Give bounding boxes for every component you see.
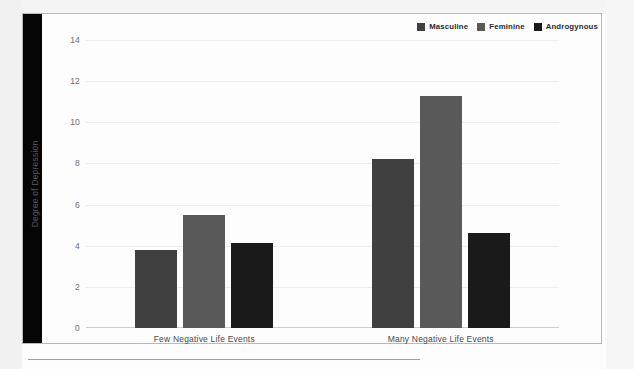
page-edge-right xyxy=(606,0,634,369)
bar xyxy=(135,250,177,328)
bar xyxy=(420,96,462,328)
legend-label: Androgynous xyxy=(546,22,598,31)
y-axis-tick-label: 2 xyxy=(75,282,80,292)
y-axis-tick-label: 14 xyxy=(70,35,80,45)
chart-legend: MasculineFeminineAndrogynous xyxy=(417,22,598,31)
bar xyxy=(183,215,225,328)
legend-item: Masculine xyxy=(417,22,468,31)
y-axis-tick-label: 12 xyxy=(70,76,80,86)
x-axis-category-label: Few Negative Life Events xyxy=(154,334,255,344)
y-axis-title-label: Degree of Depression xyxy=(30,141,40,228)
legend-swatch-icon xyxy=(534,23,542,31)
legend-label: Masculine xyxy=(429,22,468,31)
y-axis-tick-labels: 02468101214 xyxy=(42,40,84,328)
legend-label: Feminine xyxy=(489,22,524,31)
legend-item: Feminine xyxy=(477,22,524,31)
scanned-page: MasculineFeminineAndrogynous Degree of D… xyxy=(0,0,634,369)
legend-item: Androgynous xyxy=(534,22,598,31)
y-axis-tick-label: 4 xyxy=(75,241,80,251)
y-axis-tick-label: 10 xyxy=(70,117,80,127)
y-axis-tick-label: 8 xyxy=(75,158,80,168)
x-axis-category-label: Many Negative Life Events xyxy=(388,334,494,344)
page-edge-top xyxy=(0,0,634,14)
page-footer-rule xyxy=(28,359,420,360)
y-axis-tick-label: 6 xyxy=(75,200,80,210)
legend-swatch-icon xyxy=(417,23,425,31)
x-axis-category-labels: Few Negative Life EventsMany Negative Li… xyxy=(86,332,559,350)
legend-swatch-icon xyxy=(477,23,485,31)
bar xyxy=(231,243,273,328)
page-edge-left xyxy=(0,0,22,369)
y-axis-tick-label: 0 xyxy=(75,323,80,333)
bar xyxy=(468,233,510,328)
bar xyxy=(372,159,414,328)
bar-series-container xyxy=(86,40,559,328)
plot-area xyxy=(86,40,559,328)
y-axis-title: Degree of Depression xyxy=(28,40,42,328)
